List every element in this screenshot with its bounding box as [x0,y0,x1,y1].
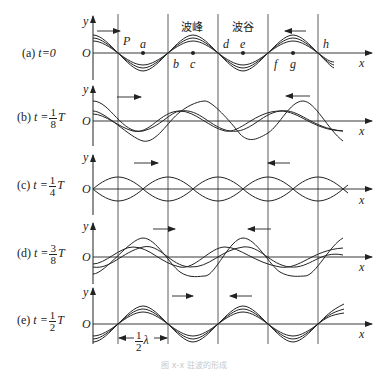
crest-label: 波峰 [181,18,203,34]
panel-b-prefix: (b) [17,110,34,124]
panel-e-period: T [57,313,64,327]
origin-label-e: O [82,317,91,332]
panel-d-fraction: 38 [49,243,57,266]
x-axis-label-e: x [359,327,364,342]
point-label-d: d [223,37,229,52]
vertical-guide-lines [118,14,318,344]
point-label-p: P [123,34,130,49]
panel-e-time: t = [33,313,47,327]
panel-label-d: (d) t =38T [17,243,65,266]
origin-label-c: O [82,182,91,197]
point-label-e: e [240,37,245,52]
x-axes [93,53,372,324]
panel-e-curves [93,304,344,342]
point-label-f: f [274,57,277,72]
figure-caption: 图 x-x 驻波的形成 [0,359,388,370]
x-axis-label-a: x [359,56,364,71]
y-axis-label-b: y [83,82,88,97]
x-axis-label-c: x [359,193,364,208]
lambda-symbol: λ [144,333,149,347]
panel-label-c: (c) t =14T [17,175,64,198]
panel-c-fraction: 14 [49,175,57,198]
panel-a-prefix: (a) [22,46,38,60]
x-axis-label-b: x [359,124,364,139]
panel-c-prefix: (c) [17,178,33,192]
panel-b-period: T [58,110,65,124]
half-wavelength-den: 2 [135,342,143,353]
y-axis-label-c: y [83,150,88,165]
panel-c-time: t = [33,178,47,192]
point-label-g: g [290,57,296,72]
panel-d-time: t = [34,246,48,260]
panel-b-fraction: 18 [49,107,57,130]
trough-label: 波谷 [232,18,254,34]
panel-c-period: T [57,178,64,192]
panel-label-a: (a) t=0 [22,46,56,61]
panel-b-time: t = [34,110,48,124]
direction-arrows [97,31,310,338]
panel-label-e: (e) t =12T [17,310,64,333]
origin-label-b: O [82,114,91,129]
panel-label-b: (b) t =18T [17,107,65,130]
panel-e-frac-den: 2 [49,322,57,333]
panel-d-prefix: (d) [17,246,34,260]
y-axis-label-d: y [83,219,88,234]
panel-e-prefix: (e) [17,313,33,327]
half-wavelength-fraction: 12 [135,330,143,353]
y-axis-label-e: y [83,285,88,300]
origin-label-a: O [82,46,91,61]
panel-d-frac-den: 8 [49,255,57,266]
point-label-a: a [140,37,146,52]
origin-label-d: O [82,250,91,265]
y-axis-label-a: y [83,14,88,29]
panel-d-period: T [58,246,65,260]
point-label-h: h [323,37,329,52]
point-label-b: b [173,57,179,72]
point-label-c: c [190,57,195,72]
panel-b-frac-den: 8 [49,119,57,130]
x-axis-label-d: x [359,260,364,275]
panel-c-frac-den: 4 [49,187,57,198]
panel-e-fraction: 12 [49,310,57,333]
panel-a-time: t=0 [38,46,55,60]
half-wavelength-label: 12λ [134,330,149,353]
